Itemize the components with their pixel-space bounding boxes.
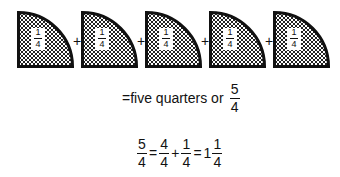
quarter-circle-icon	[145, 11, 202, 68]
numerator: 1	[287, 28, 301, 37]
plus-sign: +	[171, 145, 179, 161]
whole-number: 1	[204, 145, 212, 161]
denominator: 4	[287, 40, 301, 49]
quarter-label: 1 4	[31, 28, 45, 50]
numerator: 1	[159, 28, 173, 37]
denominator: 4	[138, 155, 146, 170]
denominator: 4	[182, 155, 190, 170]
numerator: 1	[213, 137, 221, 152]
numerator: 5	[138, 137, 146, 152]
numerator: 1	[31, 28, 45, 37]
fraction-term: 1 4	[212, 137, 222, 170]
quarter-piece-4: 1 4	[209, 11, 266, 68]
fraction-term: 4 4	[159, 137, 169, 170]
quarter-circles-row: 1 4 + 1 4 + 1 4 + 1 4	[0, 0, 340, 75]
quarter-piece-1: 1 4	[17, 11, 74, 68]
equals-sign: =	[149, 145, 157, 161]
denominator: 4	[95, 40, 109, 49]
quarter-label: 1 4	[223, 28, 237, 50]
quarter-circle-icon	[209, 11, 266, 68]
numerator: 1	[223, 28, 237, 37]
denominator: 4	[223, 40, 237, 49]
fraction-term: 1 4	[181, 137, 191, 170]
mixed-number-equation: 5 4 = 4 4 + 1 4 = 1 1 4	[136, 135, 223, 171]
plus-sign: +	[73, 34, 81, 48]
quarter-circle-icon	[17, 11, 74, 68]
five-quarters-statement: =five quarters or 5 4	[122, 80, 241, 116]
quarter-circle-icon	[273, 11, 330, 68]
fraction-term: 5 4	[137, 137, 147, 170]
denominator: 4	[160, 155, 168, 170]
numerator: 1	[182, 137, 190, 152]
statement-text: =five quarters or	[122, 90, 224, 106]
quarter-label: 1 4	[287, 28, 301, 50]
numerator: 5	[231, 82, 239, 97]
denominator: 4	[31, 40, 45, 49]
numerator: 4	[160, 137, 168, 152]
plus-sign: +	[137, 34, 145, 48]
numerator: 1	[95, 28, 109, 37]
plus-sign: +	[265, 34, 273, 48]
fraction-five-quarters: 5 4	[230, 82, 240, 115]
denominator: 4	[231, 100, 239, 115]
equals-sign: =	[193, 145, 201, 161]
plus-sign: +	[201, 34, 209, 48]
quarter-label: 1 4	[159, 28, 173, 50]
denominator: 4	[213, 155, 221, 170]
quarter-piece-2: 1 4	[81, 11, 138, 68]
denominator: 4	[159, 40, 173, 49]
quarter-circle-icon	[81, 11, 138, 68]
quarter-label: 1 4	[95, 28, 109, 50]
quarter-piece-5: 1 4	[273, 11, 330, 68]
quarter-piece-3: 1 4	[145, 11, 202, 68]
